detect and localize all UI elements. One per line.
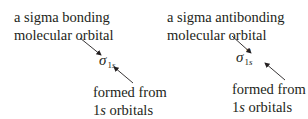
antibonding-source-line1: formed from xyxy=(232,80,306,98)
bonding-source: formed from 1s orbitals xyxy=(93,83,167,119)
sigma-subscript: 1s xyxy=(107,60,115,70)
bonding-source-line1: formed from xyxy=(93,83,167,101)
sigma-glyph: σ xyxy=(236,49,243,65)
antibonding-source: formed from 1s orbitals xyxy=(232,80,306,116)
sigma-1s-symbol: σ1s xyxy=(99,52,115,69)
left-source-arrow xyxy=(114,67,133,83)
antibonding-label: a sigma antibonding molecular orbital xyxy=(167,8,285,44)
antibonding-label-line1: a sigma antibonding xyxy=(167,8,285,26)
antibonding-label-line2: molecular orbital xyxy=(167,26,285,44)
sigma-star-subscript: 1s xyxy=(244,57,252,67)
sigma-star-1s-symbol: σ*1s xyxy=(236,49,252,66)
bonding-label-line2: molecular orbital xyxy=(14,26,113,44)
antibonding-source-line2: 1s orbitals xyxy=(232,98,306,116)
sigma-glyph: σ xyxy=(99,52,106,68)
antibonding-star: * xyxy=(246,46,251,57)
bonding-label: a sigma bonding molecular orbital xyxy=(14,8,113,44)
bonding-label-line1: a sigma bonding xyxy=(14,8,113,26)
right-source-arrow xyxy=(265,63,285,80)
bonding-source-line2: 1s orbitals xyxy=(93,101,167,119)
